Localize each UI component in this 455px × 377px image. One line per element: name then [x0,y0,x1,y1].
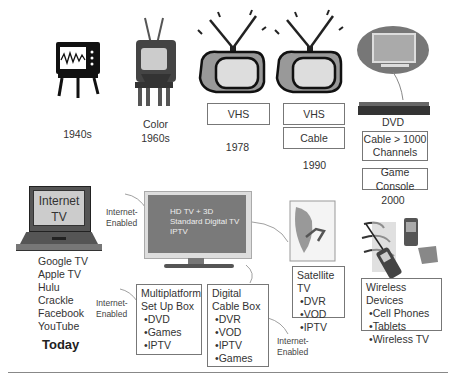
box-2000-game-console: Game Console [362,168,428,190]
era-1960s-label: Color 1960s [133,117,178,145]
box-1990-vhs: VHS [283,103,345,125]
bottom-divider [8,372,448,373]
box-wireless-devices: Wireless Devices Cell Phones Tablets Wir… [361,278,442,331]
connector-tv-satellite [252,222,292,244]
1978-retro-tv-icon [198,8,268,92]
hd-tv-icon: HD TV + 3D Standard Digital TV IPTV [144,191,252,271]
era-1990-label: 1990 [292,158,337,172]
satellite-dish-icon [290,201,335,261]
service-youtube: YouTube [38,320,88,333]
internet-enabled-label-cable: Internet- Enabled [277,336,309,358]
laptop-screen: Internet TV [33,190,85,226]
connector-tv-cable [244,265,264,285]
service-hulu: Hulu [38,281,88,294]
era-1940s-label: 1940s [55,127,100,141]
box-1990-cable: Cable [283,127,345,149]
2000-flat-tv-icon [357,26,429,116]
box-multiplatform-set-up-box: Multiplatform Set Up Box DVD Games IPTV [136,284,202,355]
connector-cable-internet [268,318,298,338]
box-2000-cable: Cable > 1000 Channels [362,131,428,161]
service-google-tv: Google TV [38,255,88,268]
today-label: Today [42,337,79,352]
box-1978-vhs: VHS [207,103,270,125]
wireless-devices-icon [360,218,440,278]
1960s-color-tv-icon [133,16,178,108]
box-satellite-tv: Satellite TV DVR VOD IPTV [292,266,345,318]
service-crackle: Crackle [38,294,88,307]
hd-tv-screen: HD TV + 3D Standard Digital TV IPTV [148,195,246,253]
era-1978-label: 1978 [215,140,260,154]
internet-services-list: Google TV Apple TV Hulu Crackle Facebook… [38,255,88,333]
era-2000-label: 2000 [373,193,413,207]
service-apple-tv: Apple TV [38,268,88,281]
box-digital-cable-box: Digital Cable Box DVR VOD IPTV Games [207,284,269,367]
1940s-tv-icon [52,38,104,100]
1990-retro-tv-icon [275,8,345,92]
laptop-icon: Internet TV [16,186,102,258]
era-2000-dvd-label: DVD [373,115,413,129]
service-facebook: Facebook [38,307,88,320]
